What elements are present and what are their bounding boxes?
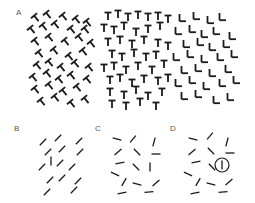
line-segment bbox=[69, 164, 75, 170]
upright-t-glyph bbox=[133, 87, 140, 95]
line-segment bbox=[75, 178, 81, 184]
l-glyph bbox=[196, 64, 203, 71]
upright-t-glyph bbox=[125, 14, 132, 22]
upright-t-glyph bbox=[157, 23, 164, 31]
tilted-t-glyph bbox=[31, 13, 42, 24]
l-glyph bbox=[176, 27, 183, 34]
l-glyph bbox=[214, 96, 221, 103]
line-segment bbox=[118, 192, 127, 194]
upright-t-glyph bbox=[145, 14, 152, 22]
upright-t-glyph bbox=[145, 26, 152, 34]
upright-t-glyph bbox=[155, 78, 162, 86]
upright-t-glyph bbox=[133, 29, 140, 37]
tilted-t-glyph bbox=[51, 20, 62, 31]
l-glyph bbox=[198, 38, 205, 45]
line-segment bbox=[111, 172, 119, 176]
l-glyph bbox=[220, 79, 227, 86]
tilted-t-glyph bbox=[67, 25, 78, 36]
tilted-t-glyph bbox=[72, 15, 83, 26]
line-segment bbox=[191, 192, 200, 194]
panel-c-segments bbox=[111, 136, 161, 194]
upright-t-glyph bbox=[153, 103, 160, 111]
upright-t-glyph bbox=[141, 37, 148, 45]
tilted-t-glyph bbox=[43, 69, 54, 80]
line-segment bbox=[153, 138, 155, 147]
l-glyph bbox=[204, 82, 211, 89]
line-segment bbox=[71, 187, 77, 193]
panel-label-d: D bbox=[170, 125, 176, 133]
line-segment bbox=[184, 172, 192, 176]
line-segment bbox=[40, 139, 46, 145]
line-segment bbox=[59, 146, 65, 152]
line-segment bbox=[59, 175, 65, 181]
upright-t-glyph bbox=[145, 93, 152, 101]
upright-t-glyph bbox=[155, 13, 162, 21]
upright-t-glyph bbox=[123, 67, 130, 75]
upright-t-glyph bbox=[121, 23, 128, 31]
line-segment bbox=[55, 135, 61, 141]
figure: A B C D bbox=[0, 0, 255, 203]
panel-label-b: B bbox=[14, 125, 19, 133]
tilted-t-glyph bbox=[61, 37, 72, 48]
upright-t-glyph bbox=[105, 39, 112, 47]
line-segment bbox=[76, 138, 82, 144]
line-segment bbox=[153, 180, 160, 186]
tilted-t-glyph bbox=[33, 61, 44, 72]
upright-t-glyph bbox=[101, 65, 108, 73]
tilted-t-glyph bbox=[37, 97, 48, 108]
upright-t-glyph bbox=[119, 54, 126, 62]
tilted-t-glyph bbox=[59, 87, 70, 98]
line-segment bbox=[192, 161, 201, 163]
upright-t-glyph bbox=[149, 67, 156, 75]
tilted-t-glyph bbox=[55, 75, 66, 86]
l-glyph bbox=[234, 76, 241, 83]
l-glyph bbox=[220, 13, 227, 20]
upright-t-glyph bbox=[117, 75, 124, 83]
tilted-t-glyph bbox=[67, 99, 78, 110]
l-glyph bbox=[202, 30, 209, 37]
l-glyph bbox=[184, 40, 191, 47]
upright-t-glyph bbox=[111, 27, 118, 35]
line-segment bbox=[133, 164, 139, 170]
upright-t-glyph bbox=[101, 25, 108, 33]
panel-label-c: C bbox=[95, 125, 101, 133]
upright-t-glyph bbox=[159, 89, 166, 97]
tilted-t-glyph bbox=[45, 58, 56, 69]
l-glyph bbox=[226, 65, 233, 72]
upright-t-glyph bbox=[137, 99, 144, 107]
panel-d-segments bbox=[184, 133, 235, 194]
tilted-t-glyph bbox=[45, 81, 56, 92]
l-glyph bbox=[174, 53, 181, 60]
upright-t-glyph bbox=[121, 92, 128, 100]
tilted-t-glyph bbox=[50, 46, 61, 57]
line-segment bbox=[115, 149, 122, 155]
tilted-t-glyph bbox=[31, 37, 42, 48]
tilted-t-glyph bbox=[85, 63, 96, 74]
upright-t-glyph bbox=[165, 75, 172, 83]
upright-t-glyph bbox=[165, 16, 172, 24]
tilted-t-glyph bbox=[73, 83, 84, 94]
upright-t-glyph bbox=[109, 51, 116, 59]
upright-t-glyph bbox=[111, 63, 118, 71]
tilted-t-glyph bbox=[81, 95, 92, 106]
upright-t-glyph bbox=[135, 12, 142, 20]
tilted-t-glyph bbox=[39, 22, 50, 33]
l-glyph bbox=[210, 69, 217, 76]
line-segment bbox=[196, 178, 201, 186]
line-segment bbox=[45, 149, 51, 155]
upright-t-glyph bbox=[107, 77, 114, 85]
line-segment bbox=[57, 160, 63, 166]
line-segment bbox=[189, 138, 198, 140]
line-segment bbox=[207, 183, 216, 185]
upright-t-glyph bbox=[141, 76, 148, 84]
upright-t-glyph bbox=[153, 52, 160, 60]
l-glyph bbox=[202, 55, 209, 62]
tilted-t-glyph bbox=[45, 33, 56, 44]
upright-t-glyph bbox=[131, 50, 138, 58]
tilted-t-glyph bbox=[35, 49, 46, 60]
l-glyph bbox=[210, 43, 217, 50]
line-segment bbox=[134, 149, 140, 155]
upright-t-glyph bbox=[107, 89, 114, 97]
l-glyph bbox=[218, 53, 225, 60]
tilted-t-glyph bbox=[67, 71, 78, 82]
